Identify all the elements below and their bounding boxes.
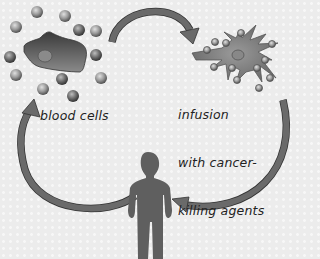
tumor-cell-icon — [24, 32, 86, 72]
infusion-label: infusion with cancer- killing agents — [178, 75, 264, 235]
infusion-label-line-3: killing agents — [178, 203, 264, 219]
blood-cells-label: blood cells — [40, 108, 109, 124]
infusion-label-line-1: infusion — [178, 107, 264, 123]
infusion-label-line-2: with cancer- — [178, 155, 264, 171]
patient-silhouette-icon — [128, 152, 172, 259]
arrow-to-infusion — [112, 11, 199, 44]
